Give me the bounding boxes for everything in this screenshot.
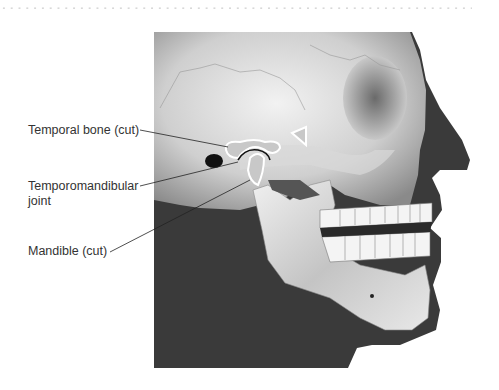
label-tmj: Temporomandibular joint (28, 179, 138, 209)
label-temporal-bone: Temporal bone (cut) (28, 123, 139, 138)
label-tmj-line1: Temporomandibular (28, 179, 138, 194)
teeth (320, 203, 432, 262)
label-mandible: Mandible (cut) (28, 244, 107, 259)
label-tmj-line2: joint (28, 194, 138, 209)
